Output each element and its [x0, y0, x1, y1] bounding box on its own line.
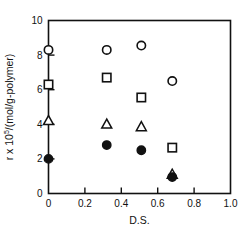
figure: 00.20.40.60.81.00246810D.S.r x 105/(mol/… — [0, 0, 246, 232]
y-tick-label-4: 8 — [37, 50, 43, 61]
data-point-filled-circle-1 — [103, 141, 111, 149]
x-axis-title: D.S. — [129, 214, 149, 226]
data-point-open-triangle-1 — [102, 119, 112, 128]
scatter-plot: 00.20.40.60.81.00246810D.S.r x 105/(mol/… — [0, 0, 246, 232]
data-point-filled-circle-0 — [44, 155, 52, 163]
data-point-open-circle-2 — [137, 41, 145, 49]
x-tick-label-3: 0.6 — [151, 198, 165, 209]
y-tick-label-0: 0 — [37, 188, 43, 199]
data-point-open-square-0 — [44, 80, 52, 88]
data-point-open-circle-0 — [44, 46, 52, 54]
data-point-open-circle-1 — [103, 46, 111, 54]
x-tick-label-0: 0 — [46, 198, 52, 209]
data-point-open-triangle-2 — [136, 122, 146, 131]
y-tick-label-1: 2 — [37, 153, 43, 164]
x-tick-label-4: 0.8 — [187, 198, 201, 209]
y-tick-label-5: 10 — [31, 15, 43, 26]
data-point-open-square-2 — [137, 93, 145, 101]
x-tick-label-5: 1.0 — [224, 198, 238, 209]
data-point-filled-circle-2 — [137, 146, 145, 154]
x-tick-label-2: 0.4 — [114, 198, 128, 209]
data-point-open-triangle-0 — [44, 116, 54, 125]
x-tick-label-1: 0.2 — [78, 198, 92, 209]
y-axis-title: r x 105/(mol/g-polymer) — [3, 54, 15, 161]
data-point-filled-circle-3 — [168, 173, 176, 181]
y-tick-label-2: 4 — [37, 119, 43, 130]
data-point-open-square-1 — [103, 73, 111, 81]
data-point-open-circle-3 — [168, 77, 176, 85]
data-point-open-square-3 — [168, 143, 176, 151]
y-tick-label-3: 6 — [37, 84, 43, 95]
